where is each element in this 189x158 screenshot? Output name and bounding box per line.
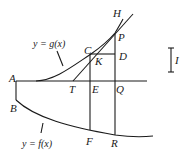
label-q: Q [116,83,124,95]
pointer-f [41,123,43,133]
label-h: H [112,7,122,19]
curve-f [16,100,153,137]
equation-f: y = f(x) [21,138,53,150]
label-a: A [8,72,16,84]
label-d: D [118,50,127,62]
equation-g: y = g(x) [32,38,66,50]
label-k: K [94,55,103,67]
label-t: T [69,83,76,95]
pointer-g [57,51,63,66]
label-c: C [84,44,92,56]
label-p: P [117,31,125,43]
label-e: E [91,83,99,95]
curve-g [36,19,123,81]
label-f: F [85,135,93,147]
diagram-canvas: A B C D E F H K P Q R T I y = g(x) y = f… [0,0,189,158]
label-r: R [110,137,118,149]
label-b: B [10,102,17,114]
label-scale-i: I [174,54,180,66]
tangent-line [73,14,133,81]
